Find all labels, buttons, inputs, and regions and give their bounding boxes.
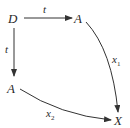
- node-a-left: A: [6, 81, 15, 96]
- arrow-a-left-to-x: [20, 89, 111, 120]
- node-d: D: [7, 11, 18, 26]
- node-a-top: A: [73, 11, 82, 26]
- arrow-a-top-to-x: [86, 22, 118, 112]
- label-x1: x1: [111, 53, 121, 68]
- label-left-t: t: [5, 43, 9, 55]
- label-top-t: t: [43, 3, 47, 15]
- commutative-diagram: D A A X t t x1 x2: [0, 0, 130, 128]
- node-x: X: [113, 113, 123, 128]
- label-x2: x2: [45, 107, 55, 122]
